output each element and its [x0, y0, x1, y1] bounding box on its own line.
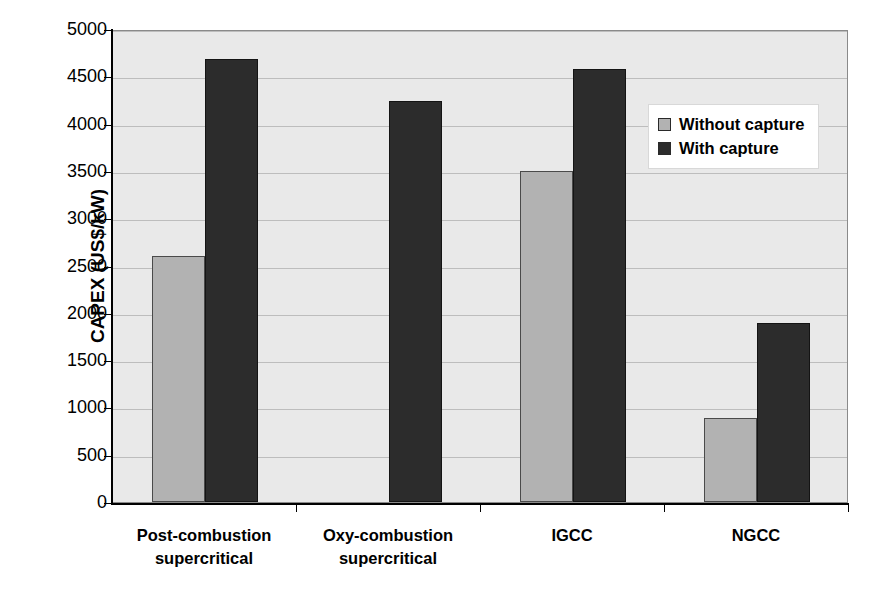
y-axis-tick-mark	[104, 219, 111, 220]
y-axis-tick-mark	[104, 361, 111, 362]
x-axis-tick-mark	[848, 504, 849, 512]
x-axis-category-label-line: Oxy-combustion	[296, 524, 480, 547]
x-axis-category-label: IGCC	[480, 524, 664, 547]
bar	[757, 323, 810, 502]
y-axis-tick-label: 3000	[15, 208, 107, 229]
x-axis-category-label: NGCC	[664, 524, 848, 547]
x-axis-tick-mark	[480, 504, 481, 512]
x-axis-category-label: Post-combustionsupercritical	[112, 524, 296, 570]
y-axis-tick-label: 4000	[15, 114, 107, 135]
y-axis-tick-label: 4500	[15, 66, 107, 87]
y-axis-tick-label: 2000	[15, 303, 107, 324]
y-axis-tick-mark	[104, 408, 111, 409]
legend-item-without-capture: Without capture	[658, 112, 804, 136]
bar	[205, 59, 258, 502]
bar	[520, 171, 573, 502]
y-axis-tick-mark	[104, 30, 111, 31]
x-axis-tick-mark	[296, 504, 297, 512]
y-axis-ticks: 0500100015002000250030003500400045005000	[0, 30, 107, 503]
bar	[573, 69, 626, 502]
legend-item-with-capture: With capture	[658, 136, 804, 160]
y-axis-tick-mark	[104, 172, 111, 173]
legend: Without capture With capture	[648, 104, 819, 169]
x-axis-category-label-line: supercritical	[296, 547, 480, 570]
legend-label-with-capture: With capture	[679, 139, 779, 158]
x-axis-category-label-line: IGCC	[480, 524, 664, 547]
x-axis-category-label-line: supercritical	[112, 547, 296, 570]
bar	[152, 256, 205, 502]
y-axis-tick-mark	[104, 456, 111, 457]
legend-swatch-icon-with-capture	[658, 142, 671, 155]
y-axis-tick-mark	[104, 267, 111, 268]
y-axis-tick-label: 2500	[15, 256, 107, 277]
x-axis-category-label: Oxy-combustionsupercritical	[296, 524, 480, 570]
x-axis-category-label-line: NGCC	[664, 524, 848, 547]
y-axis-tick-label: 500	[15, 445, 107, 466]
plot-area	[112, 30, 848, 503]
y-axis-tick-mark	[104, 314, 111, 315]
y-axis-tick-label: 1500	[15, 350, 107, 371]
x-axis-category-label-line: Post-combustion	[112, 524, 296, 547]
bar-chart: CAPEX (US$/kW) 0500100015002000250030003…	[0, 0, 873, 591]
y-axis-tick-mark	[104, 125, 111, 126]
y-axis-tick-label: 5000	[15, 19, 107, 40]
y-axis-line	[111, 29, 113, 505]
legend-label-without-capture: Without capture	[679, 115, 804, 134]
y-axis-tick-label: 1000	[15, 397, 107, 418]
y-axis-tick-label: 0	[15, 492, 107, 513]
x-axis-tick-mark	[664, 504, 665, 512]
bar	[704, 418, 757, 502]
bar	[389, 101, 442, 502]
y-axis-tick-mark	[104, 503, 111, 504]
legend-swatch-icon-without-capture	[658, 118, 671, 131]
gridline	[113, 31, 847, 32]
y-axis-tick-label: 3500	[15, 161, 107, 182]
y-axis-tick-mark	[104, 77, 111, 78]
